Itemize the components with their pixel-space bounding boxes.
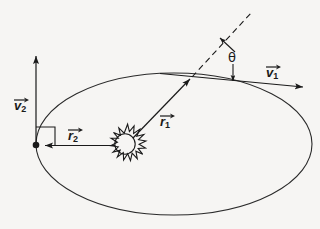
v2-label: v2 <box>14 97 26 114</box>
vector-arrow-overline-icon <box>266 64 281 70</box>
vector-arrow-overline-icon <box>14 97 29 103</box>
r1-label-subscript: 1 <box>165 120 170 130</box>
ellipse-orbit <box>36 73 312 215</box>
vector-arrow-overline-icon <box>160 113 175 119</box>
r2-label-subscript: 2 <box>73 134 78 144</box>
r1-label: r1 <box>160 113 170 130</box>
v1-vector-arrow <box>160 74 303 88</box>
radial-extension-dashed-line <box>192 13 251 77</box>
orbit-point-marker <box>33 142 40 149</box>
theta-label: θ <box>228 51 236 64</box>
v1-label-subscript: 1 <box>273 71 278 81</box>
orbit-diagram: v1 v2 r1 r2 <box>0 0 320 229</box>
v1-label: v1 <box>266 64 278 81</box>
r2-label: r2 <box>68 127 78 144</box>
vector-arrow-overline-icon <box>68 127 83 133</box>
v2-label-subscript: 2 <box>21 104 26 114</box>
